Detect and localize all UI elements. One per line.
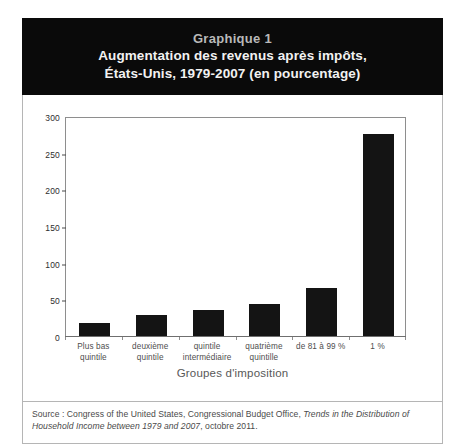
bar [193,310,224,336]
y-axis-tick-label: 300 [45,113,60,123]
x-axis-tick-mark [349,337,350,340]
x-axis-tick-mark [292,337,293,340]
y-axis-tick-label: 100 [45,260,60,270]
plot-area: 050100150200250300 [65,117,406,337]
chart-card: 050100150200250300 Plus basquintiledeuxi… [22,95,443,401]
x-axis-tick-mark [122,337,123,340]
x-axis-category-label: quintileintermédiaire [179,342,236,363]
x-axis-category-line: Plus bas [65,342,122,353]
x-axis-category-line: deuxième [122,342,179,353]
y-axis-tick-mark [62,191,66,192]
plot-inner: 050100150200250300 [66,118,405,336]
bar [136,315,167,336]
x-axis-category-line: quintille [236,353,293,364]
bar [249,304,280,336]
x-axis-category-label: quatrièmequintille [236,342,293,363]
x-axis-category-line: quatrième [236,342,293,353]
y-axis-tick-label: 50 [50,296,60,306]
figure-title-banner: Graphique 1 Augmentation des revenus apr… [22,18,443,95]
x-axis-category-label: deuxièmequintile [122,342,179,363]
x-axis-tick-mark [65,337,66,340]
bars-layer [66,118,405,336]
bar [79,323,110,336]
figure-title-line-1: Augmentation des revenus après impôts, [98,47,367,65]
x-axis-category-label: Plus basquintile [65,342,122,363]
source-note-box: Source : Congress of the United States, … [22,401,443,444]
source-note-text: Source : Congress of the United States, … [32,408,433,432]
x-axis-category-line: quintile [179,342,236,353]
source-suffix: , octobre 2011. [200,421,257,431]
x-axis-tick-mark [405,337,406,340]
y-axis-tick-mark [62,154,66,155]
x-axis-category-line: de 81 à 99 % [292,342,349,353]
bar [363,134,394,336]
y-axis-tick-label: 0 [55,333,60,343]
y-axis-tick-label: 250 [45,150,60,160]
y-axis-tick-label: 200 [45,186,60,196]
y-axis-tick-mark [62,228,66,229]
y-axis-tick-mark [62,264,66,265]
x-axis-category-label: de 81 à 99 % [292,342,349,353]
figure-root: Graphique 1 Augmentation des revenus apr… [0,0,462,448]
y-axis-tick-label: 150 [45,223,60,233]
x-axis-title: Groupes d'imposition [23,367,442,379]
source-prefix: Source : Congress of the United States, … [32,409,303,419]
y-axis-tick-mark [62,301,66,302]
x-axis-category-label: 1 % [349,342,406,353]
x-axis-tick-mark [236,337,237,340]
x-axis-category-line: quintile [122,353,179,364]
figure-title-line-2: États-Unis, 1979-2007 (en pourcentage) [105,65,361,83]
bar [306,288,337,336]
x-axis-category-line: intermédiaire [179,353,236,364]
x-axis-category-line: 1 % [349,342,406,353]
x-axis-tick-mark [179,337,180,340]
x-axis-category-line: quintile [65,353,122,364]
figure-number-label: Graphique 1 [193,30,272,47]
